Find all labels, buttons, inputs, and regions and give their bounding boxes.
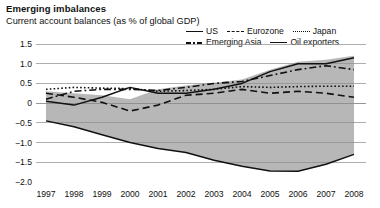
y-axis-labels: 1.51.00.50−0.5−1.0−1.5−2.0 — [0, 44, 34, 182]
x-axis-tick-label: 2007 — [316, 189, 335, 199]
x-axis-tick-label: 2008 — [344, 189, 363, 199]
chart-figure: Emerging imbalances Current account bala… — [0, 0, 380, 208]
x-axis-tick-label: 2000 — [120, 189, 139, 199]
legend-row: USEurozoneJapan — [186, 26, 378, 37]
x-axis-tick-label: 2003 — [204, 189, 223, 199]
y-axis-tick-label: −2.0 — [15, 178, 32, 187]
legend-item-label: Japan — [313, 26, 336, 37]
y-axis-tick-label: −0.5 — [15, 118, 32, 127]
legend-item-us[interactable]: US — [186, 26, 218, 37]
y-axis-tick-label: −1.5 — [15, 158, 32, 167]
legend-line-swatch-icon — [227, 28, 244, 35]
x-axis-tick-label: 2002 — [176, 189, 195, 199]
plot-area — [36, 44, 366, 182]
x-axis-tick-label: 1997 — [36, 189, 55, 199]
y-axis-tick-label: 1.5 — [20, 40, 32, 49]
chart-subtitle: Current account balances (as % of global… — [6, 16, 200, 26]
x-axis-labels: 1997199819992000200120022003200420052006… — [36, 189, 366, 203]
x-axis-tick-label: 1998 — [64, 189, 83, 199]
legend-item-label: Eurozone — [247, 26, 284, 37]
x-axis-tick-label: 2006 — [288, 189, 307, 199]
y-axis-tick-label: 0 — [27, 99, 32, 108]
x-axis-tick-label: 2005 — [260, 189, 279, 199]
shaded-range-band — [46, 56, 354, 172]
legend-item-label: US — [206, 26, 218, 37]
x-axis-tick-label: 2004 — [232, 189, 251, 199]
legend-item-japan[interactable]: Japan — [293, 26, 336, 37]
legend-line-swatch-icon — [293, 28, 310, 35]
y-axis-tick-label: 0.5 — [20, 79, 32, 88]
legend-item-eurozone[interactable]: Eurozone — [227, 26, 284, 37]
chart-canvas — [36, 44, 366, 182]
legend-line-swatch-icon — [186, 28, 203, 35]
x-axis-tick-label: 2001 — [148, 189, 167, 199]
y-axis-tick-label: −1.0 — [15, 138, 32, 147]
page-title: Emerging imbalances — [6, 3, 106, 14]
y-axis-tick-label: 1.0 — [20, 59, 32, 68]
x-axis-tick-label: 1999 — [92, 189, 111, 199]
